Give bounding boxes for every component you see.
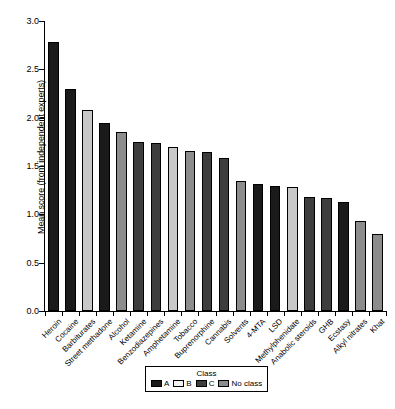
bar xyxy=(116,132,127,311)
y-tick-label: 2.5 xyxy=(0,64,39,74)
bar xyxy=(304,197,315,311)
legend-items: ABCNo class xyxy=(151,379,262,388)
y-tick-mark xyxy=(39,118,44,119)
legend: Class ABCNo class xyxy=(145,366,268,392)
bar xyxy=(65,89,76,311)
legend-label: B xyxy=(186,379,191,388)
y-tick-label: 1.5 xyxy=(0,161,39,171)
y-tick-mark xyxy=(39,69,44,70)
bar xyxy=(287,187,298,311)
legend-label: A xyxy=(164,379,169,388)
y-tick-mark xyxy=(39,214,44,215)
y-tick-mark xyxy=(39,263,44,264)
bar xyxy=(168,147,179,311)
bar xyxy=(99,123,110,311)
legend-item: No class xyxy=(218,379,262,388)
bar xyxy=(82,110,93,311)
y-tick-label: 0.5 xyxy=(0,258,39,268)
legend-swatch xyxy=(218,380,229,387)
legend-swatch xyxy=(173,380,184,387)
legend-title: Class xyxy=(151,369,262,378)
legend-item: C xyxy=(196,379,215,388)
y-tick-mark xyxy=(39,21,44,22)
y-tick-label: 1.0 xyxy=(0,209,39,219)
bar xyxy=(270,186,281,311)
y-tick-label: 2.0 xyxy=(0,113,39,123)
bar xyxy=(48,42,59,311)
legend-item: B xyxy=(173,379,191,388)
x-axis-tick-labels: HeroinCocaineBarbituratesStreet methadon… xyxy=(45,317,386,362)
legend-swatch xyxy=(151,380,162,387)
legend-item: A xyxy=(151,379,169,388)
legend-label: C xyxy=(209,379,215,388)
y-tick-label: 0.0 xyxy=(0,306,39,316)
plot-area xyxy=(45,21,386,311)
y-tick-label: 3.0 xyxy=(0,16,39,26)
bar xyxy=(219,158,230,311)
bar xyxy=(253,184,264,311)
legend-label: No class xyxy=(231,379,262,388)
legend-swatch xyxy=(196,380,207,387)
x-tick-mark xyxy=(45,311,46,316)
y-tick-mark xyxy=(39,166,44,167)
bar xyxy=(151,143,162,311)
bar-chart-figure: Mean score (from independent experts) 0.… xyxy=(0,0,395,409)
